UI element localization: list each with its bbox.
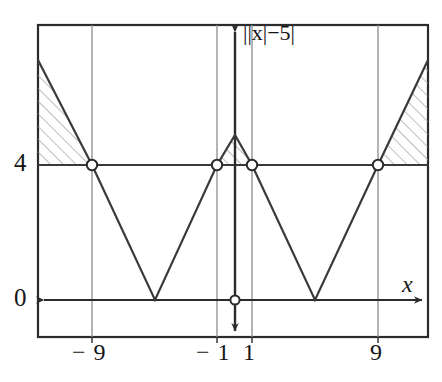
open-circle-pos1-4 [247, 160, 257, 170]
y-tick-label-0: 0 [14, 285, 27, 310]
y-tick-label-4: 4 [14, 150, 27, 175]
open-circle-origin [230, 295, 239, 304]
open-circle-neg9-4 [87, 160, 97, 170]
function-expression-label: ||x|−5| [243, 22, 295, 44]
x-axis-label: x [402, 272, 413, 296]
function-graph-figure: ||x|−5| 4 0 − 9 − 1 1 9 x [0, 0, 442, 382]
x-tick-label-neg9: − 9 [72, 340, 107, 364]
open-circle-neg1-4 [212, 160, 222, 170]
x-tick-label-neg1: − 1 [196, 340, 231, 364]
function-expression-text: ||x|−5| [243, 20, 295, 45]
x-tick-label-pos1: 1 [243, 340, 255, 364]
open-circle-pos9-4 [373, 160, 383, 170]
x-tick-label-pos9: 9 [370, 340, 382, 364]
graph-canvas [0, 0, 442, 382]
